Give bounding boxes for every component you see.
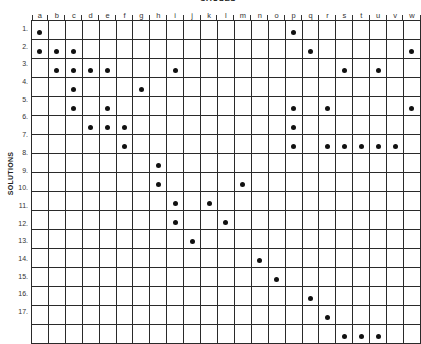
matrix-cell-q bbox=[302, 249, 319, 268]
matrix-cell-s bbox=[336, 154, 353, 173]
matrix-cell-i bbox=[167, 192, 184, 211]
matrix-cell-q bbox=[302, 230, 319, 249]
matrix-cell-w bbox=[403, 97, 420, 116]
matrix-cell-p bbox=[285, 21, 302, 40]
dot-marker-icon bbox=[291, 106, 296, 111]
dot-marker-icon bbox=[308, 296, 313, 301]
matrix-cell-e bbox=[99, 59, 116, 78]
matrix-cell-o bbox=[268, 21, 285, 40]
matrix-cell-m bbox=[234, 173, 251, 192]
matrix-cell-j bbox=[184, 135, 201, 154]
matrix-cell-j bbox=[184, 268, 201, 287]
matrix-cell-h bbox=[150, 97, 167, 116]
matrix-cell-v bbox=[387, 249, 404, 268]
matrix-cell-k bbox=[201, 211, 218, 230]
matrix-cell-t bbox=[353, 325, 370, 344]
dot-marker-icon bbox=[274, 277, 279, 282]
matrix-cell-o bbox=[268, 325, 285, 344]
matrix-cell-u bbox=[370, 230, 387, 249]
matrix-cell-m bbox=[234, 40, 251, 59]
matrix-row bbox=[32, 211, 421, 230]
matrix-cell-j bbox=[184, 59, 201, 78]
matrix-cell-h bbox=[150, 268, 167, 287]
matrix-cell-u bbox=[370, 325, 387, 344]
matrix-cell-g bbox=[133, 268, 150, 287]
matrix-cell-f bbox=[116, 268, 133, 287]
matrix-cell-l bbox=[217, 21, 234, 40]
matrix-cell-c bbox=[65, 192, 82, 211]
matrix-cell-t bbox=[353, 78, 370, 97]
matrix-cell-f bbox=[116, 287, 133, 306]
matrix-cell-v bbox=[387, 21, 404, 40]
matrix-cell-h bbox=[150, 287, 167, 306]
matrix-cell-w bbox=[403, 192, 420, 211]
matrix-cell-u bbox=[370, 268, 387, 287]
dot-marker-icon bbox=[342, 144, 347, 149]
matrix-cell-q bbox=[302, 192, 319, 211]
matrix-cell-s bbox=[336, 230, 353, 249]
row-label: 15. bbox=[14, 268, 28, 286]
matrix-cell-s bbox=[336, 59, 353, 78]
matrix-cell-s bbox=[336, 249, 353, 268]
matrix-cell-v bbox=[387, 97, 404, 116]
matrix-cell-q bbox=[302, 59, 319, 78]
matrix-cell-w bbox=[403, 116, 420, 135]
matrix-cell-t bbox=[353, 287, 370, 306]
matrix-row bbox=[32, 97, 421, 116]
matrix-cell-v bbox=[387, 211, 404, 230]
matrix-cell-s bbox=[336, 116, 353, 135]
matrix-cell-r bbox=[319, 116, 336, 135]
matrix-cell-f bbox=[116, 306, 133, 325]
matrix-cell-a bbox=[32, 59, 49, 78]
matrix-cell-u bbox=[370, 116, 387, 135]
matrix-cell-d bbox=[82, 40, 99, 59]
matrix-cell-g bbox=[133, 192, 150, 211]
matrix-cell-e bbox=[99, 287, 116, 306]
matrix-cell-w bbox=[403, 40, 420, 59]
row-label: 10. bbox=[14, 179, 28, 197]
matrix-cell-p bbox=[285, 59, 302, 78]
matrix-cell-o bbox=[268, 78, 285, 97]
matrix-cell-j bbox=[184, 230, 201, 249]
dot-marker-icon bbox=[139, 87, 144, 92]
dot-marker-icon bbox=[71, 87, 76, 92]
matrix-cell-e bbox=[99, 325, 116, 344]
matrix-row bbox=[32, 287, 421, 306]
matrix-cell-k bbox=[201, 230, 218, 249]
matrix-cell-s bbox=[336, 40, 353, 59]
matrix-cell-q bbox=[302, 116, 319, 135]
matrix-cell-l bbox=[217, 135, 234, 154]
matrix-cell-v bbox=[387, 287, 404, 306]
matrix-cell-h bbox=[150, 325, 167, 344]
matrix-cell-u bbox=[370, 21, 387, 40]
matrix-cell-i bbox=[167, 173, 184, 192]
matrix-cell-s bbox=[336, 78, 353, 97]
matrix-cell-a bbox=[32, 97, 49, 116]
matrix-cell-w bbox=[403, 21, 420, 40]
matrix-cell-p bbox=[285, 249, 302, 268]
matrix-cell-n bbox=[251, 21, 268, 40]
row-label: 9. bbox=[14, 162, 28, 180]
matrix-cell-b bbox=[48, 40, 65, 59]
matrix-cell-r bbox=[319, 287, 336, 306]
row-label: 8. bbox=[14, 144, 28, 162]
matrix-cell-s bbox=[336, 21, 353, 40]
matrix-cell-o bbox=[268, 135, 285, 154]
matrix-cell-q bbox=[302, 325, 319, 344]
matrix-cell-u bbox=[370, 59, 387, 78]
matrix-cell-q bbox=[302, 78, 319, 97]
matrix-cell-r bbox=[319, 135, 336, 154]
matrix-cell-m bbox=[234, 192, 251, 211]
matrix-cell-u bbox=[370, 192, 387, 211]
row-labels: 1.2.3.4.5.6.7.8.9.10.11.12.13.14.15.16.1… bbox=[14, 20, 28, 321]
matrix-cell-i bbox=[167, 230, 184, 249]
matrix-cell-u bbox=[370, 211, 387, 230]
matrix-cell-n bbox=[251, 306, 268, 325]
matrix-cell-l bbox=[217, 97, 234, 116]
matrix-cell-d bbox=[82, 78, 99, 97]
matrix-cell-m bbox=[234, 135, 251, 154]
matrix-cell-p bbox=[285, 173, 302, 192]
matrix-cell-r bbox=[319, 21, 336, 40]
matrix-cell-t bbox=[353, 116, 370, 135]
matrix-cell-w bbox=[403, 287, 420, 306]
